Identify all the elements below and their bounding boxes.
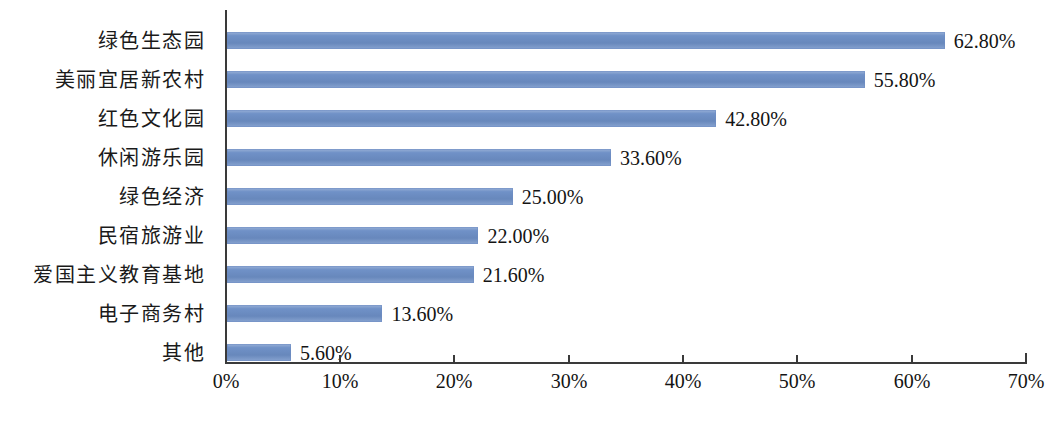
x-axis-tick — [1025, 353, 1027, 364]
bar-value-label: 25.00% — [513, 187, 584, 207]
category-label: 绿色生态园 — [0, 31, 205, 51]
x-axis-tick-label: 30% — [551, 370, 588, 392]
x-axis-tick-label: 10% — [322, 370, 359, 392]
plot-area: 62.80% 55.80% 42.80% 33.60% 25.00% 22.00… — [225, 10, 1025, 362]
bar-5 — [227, 227, 478, 244]
x-axis-tick-label: 0% — [213, 370, 240, 392]
bar-value-label: 13.60% — [382, 304, 453, 324]
bar-0 — [227, 32, 945, 49]
category-axis-labels: 绿色生态园 美丽宜居新农村 红色文化园 休闲游乐园 绿色经济 民宿旅游业 爱国主… — [0, 10, 215, 362]
x-axis-tick-label: 70% — [1008, 370, 1045, 392]
x-axis-tick — [568, 355, 570, 364]
x-axis-tick — [796, 355, 798, 364]
x-axis-tick — [225, 353, 227, 364]
bar-1 — [227, 71, 865, 88]
x-axis-tick-label: 40% — [665, 370, 702, 392]
x-axis-tick — [682, 355, 684, 364]
x-axis-line — [225, 362, 1027, 364]
bar-8 — [227, 344, 291, 361]
category-label: 爱国主义教育基地 — [0, 265, 205, 285]
bar-2 — [227, 110, 716, 127]
x-axis-tick-label: 60% — [894, 370, 931, 392]
bar-value-label: 5.60% — [291, 343, 352, 363]
bar-3 — [227, 149, 611, 166]
category-label: 电子商务村 — [0, 304, 205, 324]
bar-value-label: 55.80% — [865, 70, 936, 90]
bar-7 — [227, 305, 382, 322]
category-label: 美丽宜居新农村 — [0, 70, 205, 90]
x-axis-tick — [339, 355, 341, 364]
category-label: 民宿旅游业 — [0, 226, 205, 246]
bar-value-label: 21.60% — [474, 265, 545, 285]
horizontal-bar-chart: 绿色生态园 美丽宜居新农村 红色文化园 休闲游乐园 绿色经济 民宿旅游业 爱国主… — [0, 0, 1054, 441]
category-label: 其他 — [0, 343, 205, 363]
bar-6 — [227, 266, 474, 283]
x-axis-tick-label: 20% — [436, 370, 473, 392]
category-label: 红色文化园 — [0, 109, 205, 129]
x-axis-tick — [911, 355, 913, 364]
bar-value-label: 42.80% — [716, 109, 787, 129]
category-label: 绿色经济 — [0, 187, 205, 207]
x-axis-tick — [453, 355, 455, 364]
bar-value-label: 22.00% — [478, 226, 549, 246]
bar-value-label: 62.80% — [945, 31, 1016, 51]
bar-4 — [227, 188, 513, 205]
category-label: 休闲游乐园 — [0, 148, 205, 168]
bar-value-label: 33.60% — [611, 148, 682, 168]
x-axis-tick-label: 50% — [779, 370, 816, 392]
